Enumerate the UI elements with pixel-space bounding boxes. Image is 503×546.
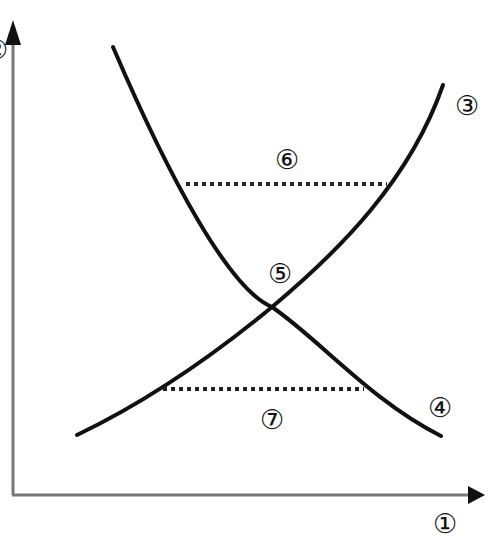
intersection-label: ⑤ [268,260,292,287]
falling-curve [113,47,441,436]
x-axis-arrowhead-icon [468,486,485,504]
falling-curve-label: ④ [428,394,452,421]
axes [5,20,485,504]
x-axis-label: ① [433,510,457,537]
rising-curve [77,85,443,435]
y-axis-label: ② [0,36,8,63]
diagram-canvas [0,0,503,546]
rising-curve-label: ③ [455,92,479,119]
upper-dotted-line-label: ⑥ [275,146,299,173]
lower-dotted-line-label: ⑦ [260,406,284,433]
